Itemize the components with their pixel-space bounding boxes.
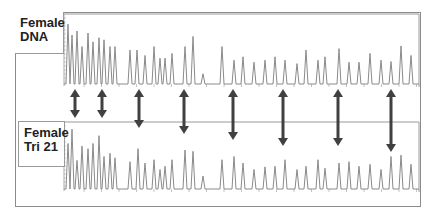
arrow-head-up-icon: [97, 89, 107, 97]
label-line: Tri 21: [24, 140, 59, 154]
arrow-head-up-icon: [70, 89, 80, 97]
arrow-head-up-icon: [333, 89, 343, 97]
label-line: Female: [20, 16, 58, 30]
arrow-head-down-icon: [228, 132, 238, 140]
label-line: Female: [24, 126, 59, 140]
arrow-head-down-icon: [333, 138, 343, 146]
panel-label-female-tri21: Female Tri 21: [18, 121, 65, 167]
arrow-head-down-icon: [179, 126, 189, 134]
arrow-head-up-icon: [386, 89, 396, 97]
arrow-head-down-icon: [278, 138, 288, 146]
arrow-head-up-icon: [179, 89, 189, 97]
electropherogram-plot: [0, 0, 439, 216]
arrow-head-down-icon: [70, 110, 80, 118]
arrow-head-down-icon: [134, 120, 144, 128]
panel-label-female-dna: Female DNA: [15, 12, 64, 54]
trace-female-tri21: [64, 129, 419, 189]
arrow-head-up-icon: [278, 89, 288, 97]
arrow-head-up-icon: [134, 89, 144, 97]
arrow-head-down-icon: [97, 110, 107, 118]
trace-female-dna: [64, 24, 419, 84]
label-line: DNA: [20, 30, 58, 44]
arrow-head-down-icon: [386, 144, 396, 152]
arrow-head-up-icon: [228, 89, 238, 97]
